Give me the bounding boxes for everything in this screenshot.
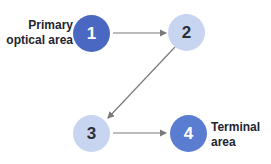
label-line: Primary: [3, 18, 73, 33]
node-2: 2: [168, 14, 205, 51]
terminal-area-label: Terminal area: [211, 120, 260, 150]
node-number: 2: [182, 23, 191, 43]
node-1: 1: [73, 15, 110, 52]
label-line: optical area: [3, 33, 73, 48]
primary-optical-area-label: Primary optical area: [3, 18, 73, 48]
label-line: area: [211, 135, 260, 150]
node-3: 3: [73, 115, 110, 152]
arrow-2-to-3: [108, 47, 175, 118]
node-4: 4: [170, 115, 207, 152]
node-number: 4: [184, 124, 193, 144]
label-line: Terminal: [211, 120, 260, 135]
node-number: 3: [87, 124, 96, 144]
node-number: 1: [87, 24, 96, 44]
